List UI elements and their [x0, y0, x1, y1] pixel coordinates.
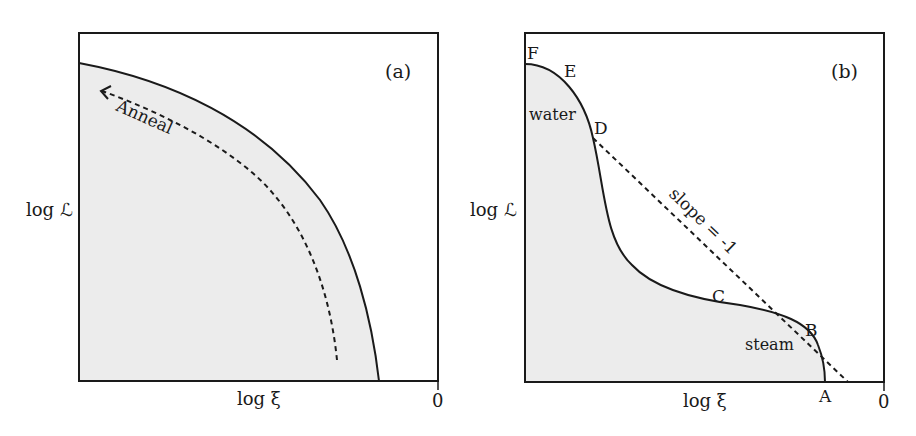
point-label-f: F: [527, 43, 539, 63]
point-label-e: E: [564, 61, 576, 81]
panel-b-tag: (b): [831, 60, 858, 82]
panel-a-zero-label: 0: [432, 390, 443, 411]
steam-region-label: steam: [745, 335, 794, 354]
point-label-d: D: [594, 118, 608, 138]
panel-a: Anneal (a) log ℒ log ξ 0: [26, 33, 443, 411]
slope-label: slope = -1: [665, 183, 741, 258]
panel-a-x-axis-label: log ξ: [237, 388, 281, 409]
water-region-label: water: [529, 105, 576, 124]
panel-b-x-axis-label: log ξ: [683, 390, 727, 411]
point-label-b: B: [805, 320, 818, 340]
point-label-c: C: [712, 286, 725, 306]
panel-b-zero-label: 0: [878, 391, 889, 412]
panel-b-y-axis-label: log ℒ: [470, 199, 517, 220]
panel-a-tag: (a): [385, 60, 411, 82]
figure: Anneal (a) log ℒ log ξ 0 slope = -1 F E …: [0, 0, 916, 436]
panel-b: slope = -1 F E D C B A water steam (b) l…: [470, 33, 889, 412]
point-label-a: A: [818, 386, 832, 406]
panel-a-y-axis-label: log ℒ: [26, 199, 73, 220]
